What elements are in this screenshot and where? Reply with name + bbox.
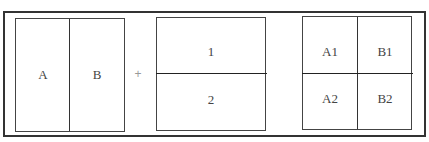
vertical-split-panel: A B xyxy=(15,18,125,132)
horizontal-split-panel: 1 2 xyxy=(156,17,266,131)
cell-a-label: A xyxy=(38,67,47,83)
cell-1-label: 1 xyxy=(208,44,215,60)
plus-operator: + xyxy=(134,67,141,81)
horizontal-divider xyxy=(156,73,267,74)
cell-2-label: 2 xyxy=(208,92,215,108)
cell-a1-label: A1 xyxy=(322,44,338,60)
cell-b1-label: B1 xyxy=(377,44,392,60)
cell-b2-label: B2 xyxy=(377,91,392,107)
cell-a2-label: A2 xyxy=(322,91,338,107)
cell-b-label: B xyxy=(93,67,102,83)
grid-panel: A1 B1 A2 B2 xyxy=(302,16,412,130)
vertical-divider xyxy=(69,19,70,131)
grid-horizontal-divider xyxy=(302,73,413,74)
